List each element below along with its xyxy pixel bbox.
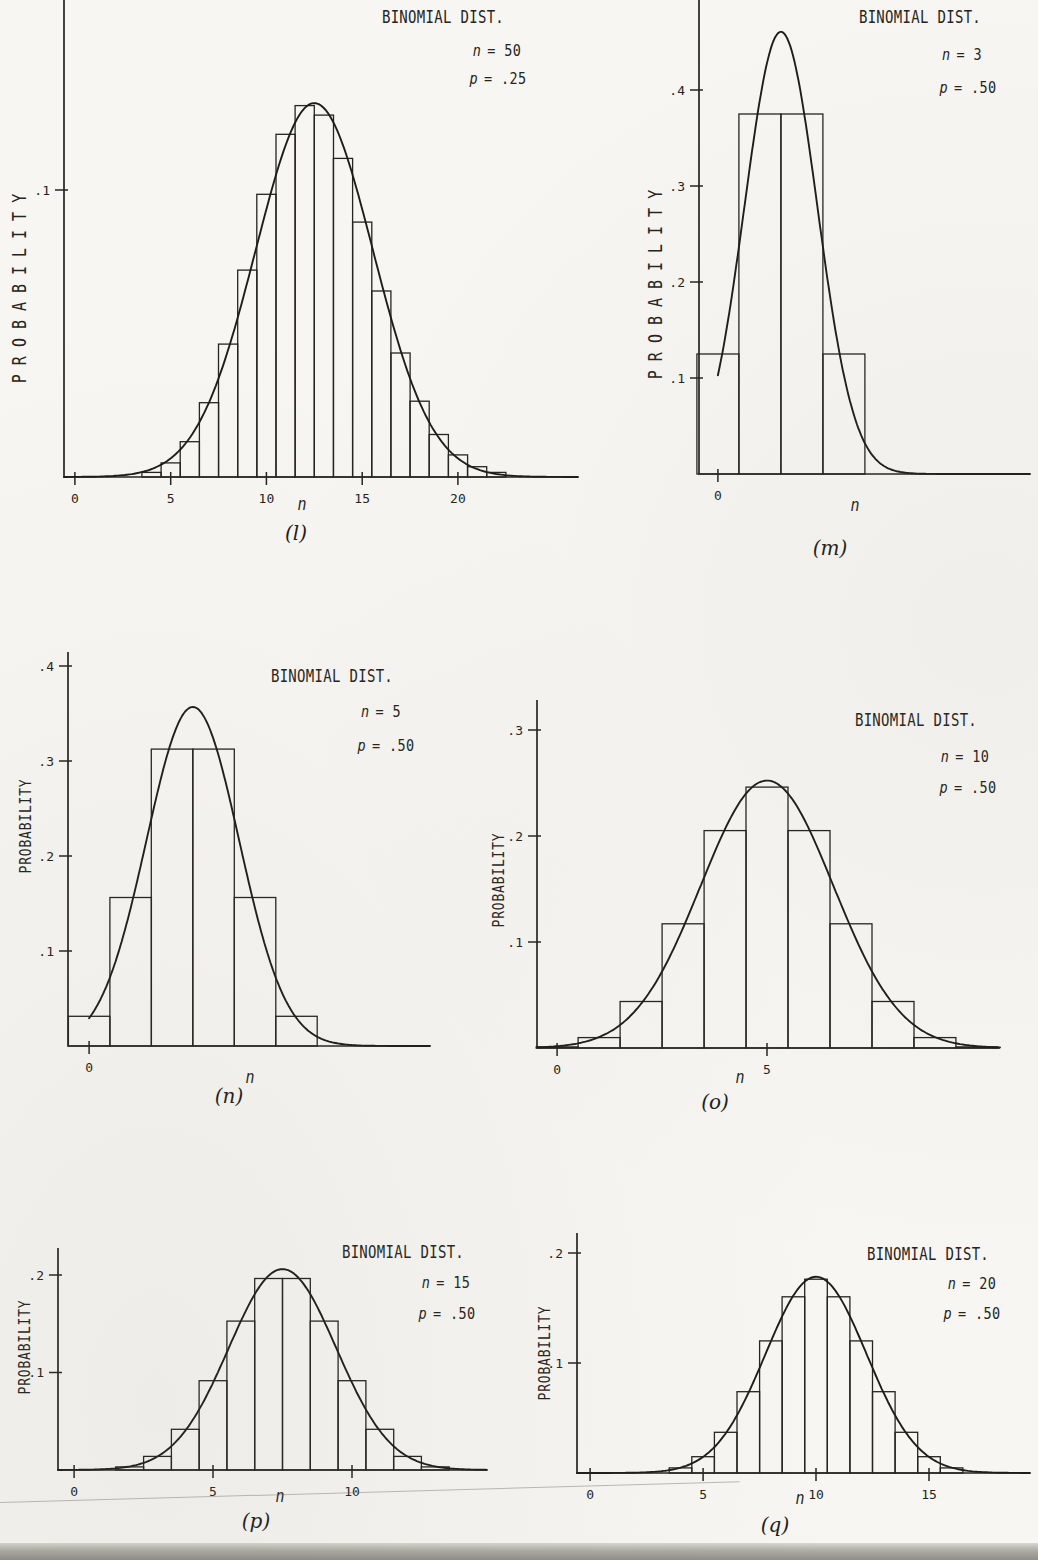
histogram-bar [171, 1429, 199, 1470]
param-p: p= .50 [939, 77, 996, 97]
histogram-bar [739, 114, 781, 474]
figure-caption: (q) [761, 1513, 789, 1537]
y-tick-label: .1 [507, 935, 523, 950]
figure-caption: (l) [285, 521, 307, 545]
y-tick-label: .4 [669, 83, 685, 98]
histogram-bar [110, 898, 151, 1047]
y-tick-label: .3 [38, 754, 54, 769]
figure-caption: (n) [215, 1084, 244, 1108]
histogram-bar [219, 344, 238, 477]
param-n: n= 20 [948, 1273, 997, 1293]
param-n-value: = 15 [436, 1272, 470, 1292]
param-p-symbol: p [469, 68, 478, 88]
scan-bottom-edge-artifact [0, 1543, 1038, 1560]
figure-caption: (m) [813, 536, 848, 560]
y-tick-label: .2 [28, 1268, 44, 1283]
histogram-bar [781, 114, 823, 474]
param-n: n= 5 [361, 701, 401, 721]
histogram-bar [283, 1279, 311, 1471]
param-p-symbol: p [943, 1303, 952, 1323]
x-tick-label: 15 [921, 1487, 937, 1502]
y-axis-label: PROBABILITY [9, 185, 32, 383]
histogram-bar [895, 1432, 918, 1473]
normal-curve [89, 707, 430, 1046]
param-n-value: = 5 [375, 701, 401, 721]
y-axis-label: PROBABILITY [535, 1306, 554, 1401]
chart-title: BINOMIAL DIST. [855, 710, 977, 730]
param-n: n= 10 [941, 746, 990, 766]
param-n-symbol: n [948, 1273, 957, 1293]
histogram-bar [333, 158, 352, 477]
histogram-bar [620, 1002, 662, 1049]
param-p: p= .50 [939, 777, 996, 797]
param-n: n= 50 [473, 40, 522, 60]
plot-p: 0510.1.2 [28, 1248, 487, 1499]
param-p-symbol: p [939, 77, 948, 97]
x-axis-label: n [735, 1066, 744, 1088]
param-p-value: = .50 [372, 735, 415, 755]
histogram-bar [199, 403, 218, 477]
y-tick-label: .4 [38, 659, 54, 674]
param-n-symbol: n [361, 701, 370, 721]
histogram-bar [873, 1392, 896, 1473]
y-tick-label: .2 [507, 829, 523, 844]
x-tick-label: 15 [354, 491, 370, 506]
param-p-value: = .25 [484, 68, 527, 88]
x-axis-label: n [297, 493, 306, 515]
param-p-symbol: p [357, 735, 366, 755]
plot-m: 0.1.2.3.4 [669, 0, 1030, 503]
param-p-value: = .50 [954, 777, 997, 797]
param-p: p= .25 [469, 68, 526, 88]
x-axis-label: n [850, 494, 859, 516]
param-n: n= 3 [942, 44, 982, 64]
y-axis-label: PROBABILITY [15, 1300, 34, 1395]
histogram-bar [872, 1002, 914, 1049]
x-axis-label: n [795, 1487, 804, 1509]
normal-curve [718, 32, 1030, 474]
histogram-bar [366, 1429, 394, 1470]
x-tick-label: 10 [259, 491, 275, 506]
param-p-symbol: p [939, 777, 948, 797]
histogram-bar [276, 134, 295, 477]
param-n-symbol: n [942, 44, 951, 64]
histogram-bar [372, 291, 391, 477]
histogram-bar [255, 1279, 283, 1471]
normal-curve [537, 781, 1000, 1048]
param-n: n= 15 [422, 1272, 471, 1292]
x-tick-label: 0 [586, 1487, 594, 1502]
histogram-bar [805, 1279, 828, 1473]
y-tick-label: .1 [669, 371, 685, 386]
param-p: p= .50 [357, 735, 414, 755]
x-tick-label: 10 [808, 1487, 824, 1502]
param-n-symbol: n [941, 746, 950, 766]
histogram-bar [338, 1381, 366, 1470]
histogram-bar [737, 1392, 760, 1473]
x-tick-label: 5 [699, 1487, 707, 1502]
param-p: p= .50 [418, 1303, 475, 1323]
normal-curve [64, 103, 578, 477]
y-axis-label: PROBABILITY [489, 833, 508, 928]
y-tick-label: .2 [669, 275, 685, 290]
histogram-bar [714, 1432, 737, 1473]
plots-canvas: 05101520.10.1.2.3.40.1.2.3.405.1.2.30510… [0, 0, 1038, 1560]
histogram-bar [782, 1297, 805, 1473]
chart-title: BINOMIAL DIST. [342, 1242, 464, 1262]
y-tick-label: .2 [547, 1246, 563, 1261]
y-axis-label: PROBABILITY [645, 181, 668, 379]
histogram-bar [394, 1456, 422, 1470]
chart-title: BINOMIAL DIST. [867, 1244, 989, 1264]
param-p-value: = .50 [954, 77, 997, 97]
x-tick-label: 0 [714, 488, 722, 503]
figure-caption: (o) [701, 1090, 729, 1114]
histogram-bar [353, 222, 372, 477]
y-tick-label: .1 [34, 183, 50, 198]
param-p-value: = .50 [958, 1303, 1001, 1323]
x-tick-label: 5 [167, 491, 175, 506]
y-tick-label: .3 [507, 723, 523, 738]
param-n-value: = 3 [956, 44, 982, 64]
histogram-bar [295, 106, 314, 477]
x-tick-label: 0 [85, 1060, 93, 1075]
param-p: p= .50 [943, 1303, 1000, 1323]
y-tick-label: .3 [669, 179, 685, 194]
y-tick-label: .1 [38, 944, 54, 959]
